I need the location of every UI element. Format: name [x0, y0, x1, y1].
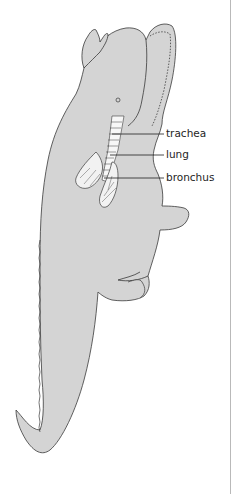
- diagram: trachea lung bronchus: [0, 0, 233, 494]
- crocodile-illustration: [0, 0, 233, 494]
- crocodile-body: [16, 24, 189, 453]
- label-bronchus: bronchus: [166, 172, 214, 183]
- label-lung: lung: [166, 149, 189, 160]
- page-edge-line: [230, 0, 231, 494]
- label-trachea: trachea: [166, 128, 206, 139]
